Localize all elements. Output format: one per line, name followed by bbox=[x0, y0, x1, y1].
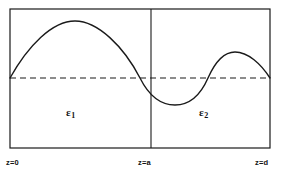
axis-label-z-d: z=d bbox=[255, 159, 268, 167]
dielectric-field-figure bbox=[0, 0, 282, 177]
epsilon-2-label: ε2 bbox=[199, 107, 208, 120]
epsilon-1-symbol: ε bbox=[66, 106, 71, 118]
epsilon-1-label: ε1 bbox=[66, 107, 75, 120]
axis-label-z-a: z=a bbox=[138, 159, 151, 167]
epsilon-2-subscript: 2 bbox=[204, 111, 209, 120]
figure-canvas: ε1 ε2 z=0 z=a z=d bbox=[0, 0, 282, 177]
epsilon-2-symbol: ε bbox=[199, 106, 204, 118]
field-amplitude-curve bbox=[10, 21, 270, 105]
epsilon-1-subscript: 1 bbox=[71, 111, 76, 120]
axis-label-z-zero: z=0 bbox=[6, 159, 19, 167]
